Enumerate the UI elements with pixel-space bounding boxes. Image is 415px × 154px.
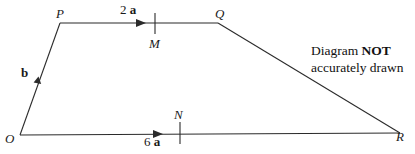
note-strong-not: NOT xyxy=(362,43,391,58)
vector-label-b: b xyxy=(21,66,28,79)
arrowhead-PQ xyxy=(136,19,146,27)
note-prefix: Diagram xyxy=(311,43,362,58)
vertex-label-R: R xyxy=(396,130,404,143)
note-line-1: Diagram NOT xyxy=(311,43,404,60)
trapezium-figure xyxy=(0,0,415,154)
vertex-label-Q: Q xyxy=(215,7,224,20)
vector-label-6a: 6 a xyxy=(144,135,160,148)
edge-OR xyxy=(20,133,400,135)
vector-scalar-2: 2 xyxy=(120,2,127,17)
vector-symbol-a-top: a xyxy=(130,2,137,17)
diagram-canvas: P Q O R M N 2 a 6 a b Diagram NOT accura… xyxy=(0,0,415,154)
midpoint-label-M: M xyxy=(149,37,160,50)
midpoint-label-N: N xyxy=(174,108,183,121)
note-line-2: accurately drawn xyxy=(311,60,404,77)
diagram-not-accurate-note: Diagram NOT accurately drawn xyxy=(311,43,404,77)
vertex-label-O: O xyxy=(5,132,14,145)
edge-QR xyxy=(218,23,400,133)
vector-label-2a: 2 a xyxy=(120,3,136,16)
vector-symbol-a-bottom: a xyxy=(154,134,161,149)
vector-symbol-b: b xyxy=(21,65,28,80)
vector-scalar-6: 6 xyxy=(144,134,151,149)
vertex-label-P: P xyxy=(56,7,64,20)
